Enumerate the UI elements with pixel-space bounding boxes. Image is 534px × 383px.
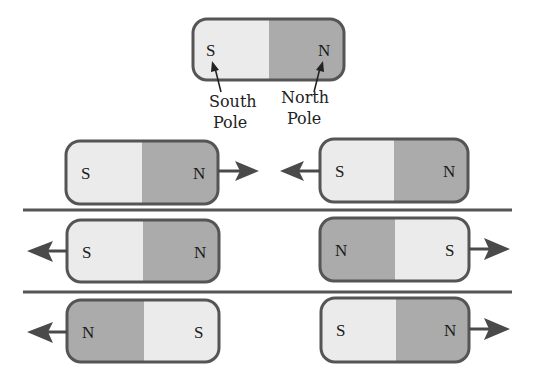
pole-letter: S	[336, 321, 345, 340]
row-3-left-magnet: N S	[67, 300, 219, 362]
pole-letter: N	[444, 321, 456, 340]
pole-letter: S	[81, 164, 90, 183]
magnet-poles-diagram: S N South Pole North Pole S N S N	[0, 0, 534, 383]
arrow-left-icon	[27, 322, 67, 343]
pole-letter: N	[194, 243, 206, 262]
pole-letter: N	[82, 323, 94, 342]
arrow-left-icon	[280, 161, 320, 181]
arrow-left-icon	[27, 241, 67, 262]
north-pole-label-line1: North	[281, 88, 329, 107]
north-pole-label-line2: Pole	[287, 109, 321, 128]
legend-south-letter: S	[206, 41, 215, 60]
arrow-right-icon	[469, 318, 510, 340]
row-1-right-magnet: S N	[320, 139, 468, 202]
pole-letter: S	[335, 162, 344, 181]
row-2-left-magnet: S N	[67, 220, 219, 282]
pole-letter: N	[193, 164, 205, 183]
arrow-right-icon	[218, 161, 259, 181]
pole-letter: S	[194, 323, 203, 342]
south-pole-label-line2: Pole	[213, 113, 247, 132]
row-2-right-magnet: N S	[320, 218, 469, 281]
row-1-left-magnet: S N	[66, 141, 218, 204]
row-3-right-magnet: S N	[321, 298, 469, 362]
arrow-right-icon	[469, 238, 510, 260]
pole-letter: S	[82, 243, 91, 262]
legend-north-letter: N	[318, 41, 330, 60]
pole-letter: S	[445, 241, 454, 260]
pole-letter: N	[443, 162, 455, 181]
south-pole-label-line1: South	[209, 92, 257, 111]
pole-letter: N	[335, 241, 347, 260]
